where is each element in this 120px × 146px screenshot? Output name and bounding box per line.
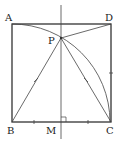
segment-pd [61, 24, 111, 38]
label-a: A [5, 13, 12, 23]
right-angle-mark [61, 117, 66, 122]
geometry-figure [0, 0, 120, 146]
tick-pc [84, 78, 88, 82]
label-d: D [105, 13, 113, 23]
label-c: C [106, 126, 114, 136]
label-p: P [48, 36, 55, 46]
point-p [60, 37, 62, 39]
label-b: B [7, 126, 14, 136]
label-m: M [46, 126, 56, 136]
